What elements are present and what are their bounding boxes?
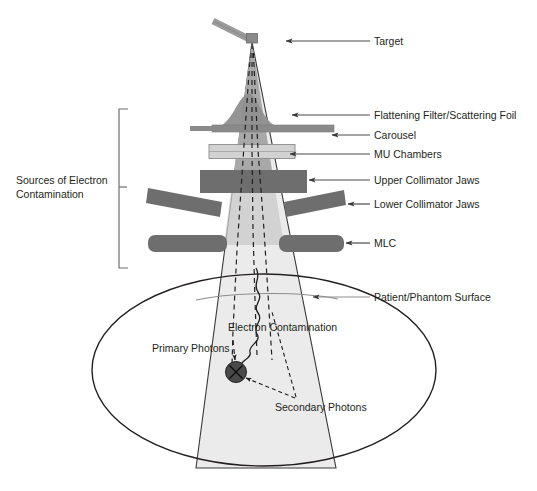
label-mu-chambers: MU Chambers: [374, 148, 442, 160]
mlc-bank-right: [279, 235, 344, 252]
dose-point-marker: [226, 362, 247, 383]
sources-bracket-label-line1: Sources of Electron: [16, 174, 108, 186]
electron-waveguide: [213, 21, 251, 40]
label-secondary-photons: Secondary Photons: [275, 401, 367, 413]
label-patient-phantom-surface: Patient/Phantom Surface: [374, 291, 491, 303]
sources-bracket-label-line2: Contamination: [16, 188, 84, 200]
flattening-filter: [212, 94, 286, 128]
lower-collimator-jaw-right: [284, 190, 346, 217]
label-carousel: Carousel: [374, 129, 416, 141]
label-primary-photons: Primary Photons: [152, 342, 230, 354]
carousel-bar: [190, 125, 334, 132]
label-target: Target: [374, 35, 403, 47]
label-flattening-filter: Flattening Filter/Scattering Foil: [374, 109, 516, 121]
sources-bracket: [119, 109, 128, 268]
label-lower-collimator-jaws: Lower Collimator Jaws: [374, 198, 480, 210]
label-electron-contamination: Electron Contamination: [228, 321, 337, 333]
upper-collimator-jaws-bar: [200, 170, 307, 193]
linac-head-diagram: Sources of Electron Contamination Target…: [0, 0, 537, 491]
mlc-bank-left: [148, 235, 227, 252]
label-mlc: MLC: [374, 237, 397, 249]
target-block: [247, 34, 258, 44]
label-upper-collimator-jaws: Upper Collimator Jaws: [374, 174, 480, 186]
